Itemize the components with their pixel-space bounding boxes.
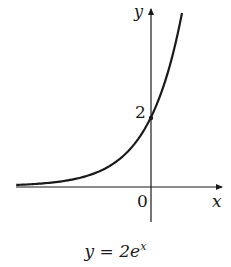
exponential-curve <box>16 13 182 185</box>
x-axis-label: x <box>212 193 222 210</box>
y-axis-label: y <box>134 4 143 20</box>
caption-exponent: x <box>140 240 146 253</box>
function-caption: y = 2ex <box>0 240 231 261</box>
y-tick-label-2: 2 <box>135 104 146 121</box>
exponential-graph <box>0 0 231 267</box>
origin-label: 0 <box>137 193 148 210</box>
y-intercept-point <box>149 116 153 120</box>
caption-base: y = 2e <box>85 241 141 261</box>
